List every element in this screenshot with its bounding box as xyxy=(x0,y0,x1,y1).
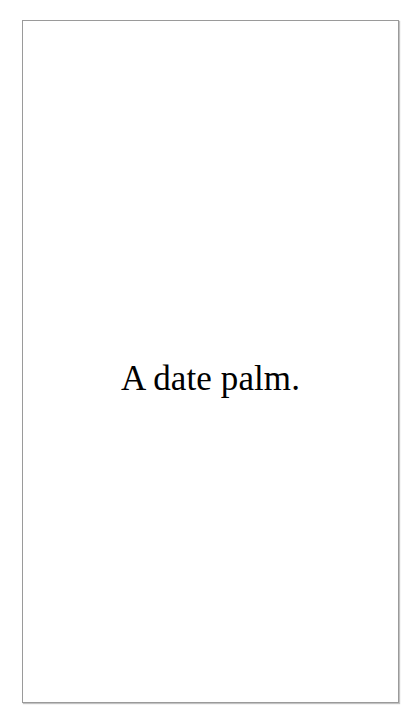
page-canvas: A date palm. xyxy=(0,0,418,720)
page-frame-border: A date palm. xyxy=(22,20,399,703)
caption-text: A date palm. xyxy=(23,359,398,399)
page-content-area: A date palm. xyxy=(23,21,398,702)
